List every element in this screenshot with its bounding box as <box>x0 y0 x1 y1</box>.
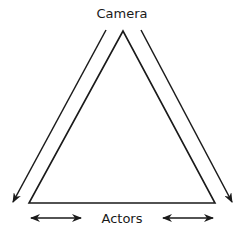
left-arrow <box>13 30 106 202</box>
camera-actors-diagram: Camera Actors <box>0 0 245 242</box>
right-arrow <box>141 30 232 202</box>
actors-label: Actors <box>102 211 143 226</box>
camera-label: Camera <box>96 6 147 21</box>
